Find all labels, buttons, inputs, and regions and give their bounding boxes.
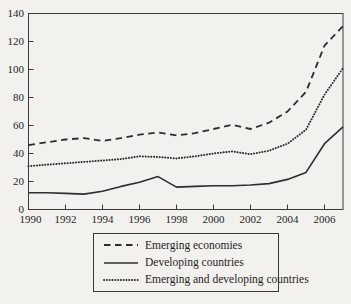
y-tick-label: 100: [8, 63, 25, 75]
chart-legend: Emerging economies Developing countries …: [93, 233, 279, 292]
legend-item-emerging-and-developing-countries: Emerging and developing countries: [103, 272, 278, 288]
legend-item-emerging-economies: Emerging economies: [103, 237, 278, 253]
dotted-line-swatch: [103, 276, 139, 284]
line-chart: 0204060801001201401990199219941996199820…: [0, 0, 351, 232]
y-tick-label: 20: [13, 175, 25, 187]
x-tick-label: 1992: [55, 213, 77, 225]
y-tick-label: 60: [13, 119, 25, 131]
x-tick-label: 1994: [92, 213, 115, 225]
x-tick-label: 1990: [20, 213, 43, 225]
legend-label-emerging-and-developing-countries: Emerging and developing countries: [145, 274, 309, 286]
dashed-line-swatch: [103, 241, 139, 249]
x-tick-label: 2002: [240, 213, 262, 225]
solid-line-swatch: [103, 259, 139, 267]
series-line-emerging-economies: [29, 26, 344, 145]
x-tick-label: 2000: [203, 213, 226, 225]
series-line-emerging-and-developing-countries: [29, 68, 344, 166]
y-tick-label: 140: [8, 7, 25, 19]
x-tick-label: 1996: [129, 213, 152, 225]
y-tick-label: 120: [8, 35, 25, 47]
legend-label-emerging-economies: Emerging economies: [145, 240, 242, 252]
x-tick-label: 1998: [166, 213, 189, 225]
x-tick-label: 2004: [277, 213, 300, 225]
y-tick-label: 80: [13, 91, 25, 103]
y-tick-label: 40: [13, 147, 25, 159]
legend-item-developing-countries: Developing countries: [103, 255, 278, 271]
plot-frame: [29, 14, 344, 210]
x-tick-label: 2006: [314, 213, 337, 225]
legend-label-developing-countries: Developing countries: [145, 257, 244, 269]
